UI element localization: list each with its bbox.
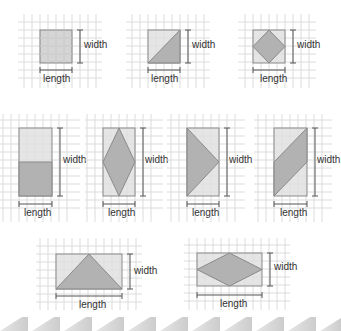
length-label: length <box>192 208 219 218</box>
half-triangle-diagram <box>110 0 220 100</box>
length-label: length <box>108 208 135 218</box>
figure-tall-rect-diamond: width length <box>85 110 170 230</box>
length-label: length <box>24 208 51 218</box>
width-label: width <box>317 155 340 165</box>
width-label: width <box>134 266 157 276</box>
figure-wide-rect-diamond: width length <box>180 230 341 312</box>
length-label: length <box>79 300 106 310</box>
figure-wide-rect-triangle: width length <box>30 230 180 312</box>
figure-tall-rect-bottom-half: width length <box>0 110 88 230</box>
width-label: width <box>84 40 107 50</box>
length-label: length <box>280 208 307 218</box>
width-label: width <box>192 40 215 50</box>
width-label: width <box>63 155 86 165</box>
inscribed-diamond-diagram <box>220 0 341 100</box>
decorative-bottom-strip <box>0 312 341 331</box>
wide-diamond-diagram <box>180 230 341 312</box>
figure-tall-rect-parallelogram: width length <box>250 110 341 230</box>
figure-tall-rect-side-triangle: width length <box>165 110 250 230</box>
length-label: length <box>151 74 178 84</box>
width-label: width <box>297 40 320 50</box>
figure-square: width length <box>0 0 110 100</box>
figure-square-half-triangle: width length <box>110 0 220 100</box>
width-label: width <box>274 262 297 272</box>
width-label: width <box>229 155 252 165</box>
square-diagram <box>0 0 110 100</box>
length-label: length <box>220 299 247 309</box>
length-label: length <box>43 74 70 84</box>
length-label: length <box>260 74 287 84</box>
figure-square-inscribed-diamond: width length <box>220 0 341 100</box>
